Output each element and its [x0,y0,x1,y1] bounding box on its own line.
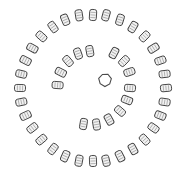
marker-outer-ring-9 [75,9,84,21]
spiral-marker-plot [0,0,186,180]
plot-background [0,0,186,180]
marker-inner-arc-4 [52,81,63,89]
marker-inner-arc-12 [92,119,101,131]
marker-outer-ring-16 [14,84,25,91]
marker-outer-ring-0 [160,84,172,92]
marker-outer-ring-1 [159,70,171,78]
marker-outer-ring-23 [75,155,84,167]
marker-outer-ring-31 [159,98,171,107]
marker-inner-arc-0 [85,45,94,57]
figure-canvas: Spiral arrangement of capsule markers Tw… [0,0,186,180]
marker-outer-ring-8 [89,9,97,20]
marker-inner-arc-8 [124,84,135,92]
marker-inner-arc-13 [79,118,88,130]
marker-outer-ring-24 [89,155,96,166]
